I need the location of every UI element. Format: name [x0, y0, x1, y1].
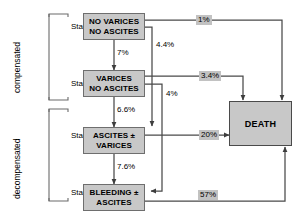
group-label-compensated: compensated — [12, 42, 22, 93]
stage-box-3-line-1: ASCITES ± — [93, 131, 135, 141]
diagram-canvas: compensated decompensated Stage 1 Stage … — [0, 0, 300, 216]
transition-label-s4-to-death: 57% — [198, 190, 218, 200]
arrow-s2-to-death — [145, 76, 243, 100]
group-brackets — [49, 14, 68, 201]
bracket-decompensated-top — [49, 109, 68, 112]
bracket-decompensated-bottom — [49, 198, 68, 201]
stage-box-4-line-1: BLEEDING ± — [90, 188, 139, 198]
transition-label-s3-to-s4: 7.6% — [117, 162, 135, 172]
transition-label-s2-to-s3: 6.6% — [117, 105, 135, 115]
bracket-compensated-top — [49, 14, 68, 17]
stage-box-2-line-1: VARICES — [96, 74, 132, 84]
stage-box-4[interactable]: BLEEDING ± ASCITES — [83, 184, 145, 211]
transition-label-s1-to-s3: 4.4% — [156, 40, 174, 50]
stage-box-1[interactable]: NO VARICES NO ASCITES — [83, 13, 145, 40]
transition-label-s3-to-death: 20% — [199, 130, 219, 140]
transition-label-s1-to-death: 1% — [196, 15, 212, 25]
transition-label-s2-to-s4: 4% — [166, 89, 178, 99]
stage-box-2[interactable]: VARICES NO ASCITES — [83, 70, 145, 97]
death-box[interactable]: DEATH — [229, 101, 292, 146]
stage-box-3[interactable]: ASCITES ± VARICES — [83, 127, 145, 154]
stage-box-3-line-2: VARICES — [96, 141, 132, 151]
stage-box-4-line-2: ASCITES — [96, 198, 131, 208]
stage-box-1-line-2: NO ASCITES — [89, 27, 139, 37]
arrow-s1-to-death — [145, 20, 282, 100]
bracket-compensated-bottom — [49, 97, 68, 100]
group-label-decompensated: decompensated — [12, 139, 22, 200]
death-box-label: DEATH — [245, 119, 276, 129]
stage-box-1-line-1: NO VARICES — [89, 17, 139, 27]
transition-label-s2-to-death: 3.4% — [199, 71, 221, 81]
arrow-s2-to-s4 — [145, 84, 162, 191]
transition-label-s1-to-s2: 7% — [117, 48, 129, 58]
stage-box-2-line-2: NO ASCITES — [89, 84, 139, 94]
